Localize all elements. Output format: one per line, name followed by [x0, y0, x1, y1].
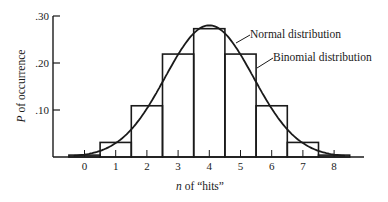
x-tick-label: 4 [207, 160, 213, 172]
x-tick-label: 2 [144, 160, 150, 172]
bar-5 [225, 54, 256, 157]
y-axis-title: P of occurrence [15, 50, 27, 124]
x-tick-label: 7 [300, 160, 306, 172]
x-tick-label: 1 [113, 160, 119, 172]
x-tick-label: 6 [269, 160, 275, 172]
x-tick-label: 8 [331, 160, 337, 172]
binomial-leader-line [257, 58, 273, 68]
normal-leader-line [236, 35, 250, 43]
bar-4 [194, 29, 225, 157]
x-tick-label: 5 [238, 160, 244, 172]
bar-2 [131, 106, 162, 157]
y-tick-label: .10 [35, 104, 49, 116]
normal-curve [74, 25, 345, 155]
x-tick-label: 3 [175, 160, 181, 172]
y-tick-label: .30 [35, 10, 49, 22]
bar-6 [256, 106, 287, 157]
y-tick-label: .20 [35, 57, 49, 69]
binomial-distribution-label: Binomial distribution [273, 51, 372, 63]
x-tick-label: 0 [82, 160, 88, 172]
x-axis-title: n of “hits” [176, 180, 224, 192]
bar-3 [163, 54, 194, 157]
chart: .10.20.30 012345678 Normal distribution … [0, 0, 388, 202]
normal-distribution-label: Normal distribution [250, 28, 341, 40]
y-axis: .10.20.30 [35, 10, 60, 157]
binomial-bars [69, 29, 350, 157]
